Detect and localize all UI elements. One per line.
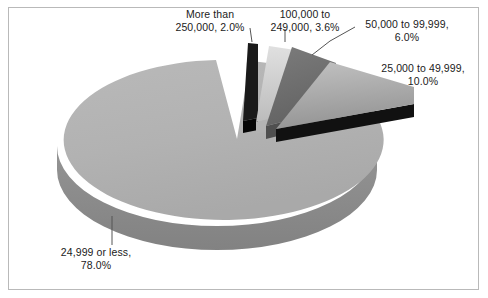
pie-chart-figure: More than 250,000, 2.0% 100,000 to 249,0… xyxy=(0,0,488,298)
pie-label-25000-49999: 25,000 to 49,999, 10.0% xyxy=(368,62,478,87)
pie-label-100000-249000: 100,000 to 249,000, 3.6% xyxy=(262,8,348,33)
pie-slice-more-than-250000[interactable] xyxy=(243,43,258,133)
pie-slice-more-than-250000-top xyxy=(243,43,258,121)
pie-label-50000-99999: 50,000 to 99,999, 6.0% xyxy=(356,18,458,43)
pie-label-24999-or-less: 24,999 or less, 78.0% xyxy=(40,246,152,271)
pie-label-more-than-250000: More than 250,000, 2.0% xyxy=(164,8,256,33)
